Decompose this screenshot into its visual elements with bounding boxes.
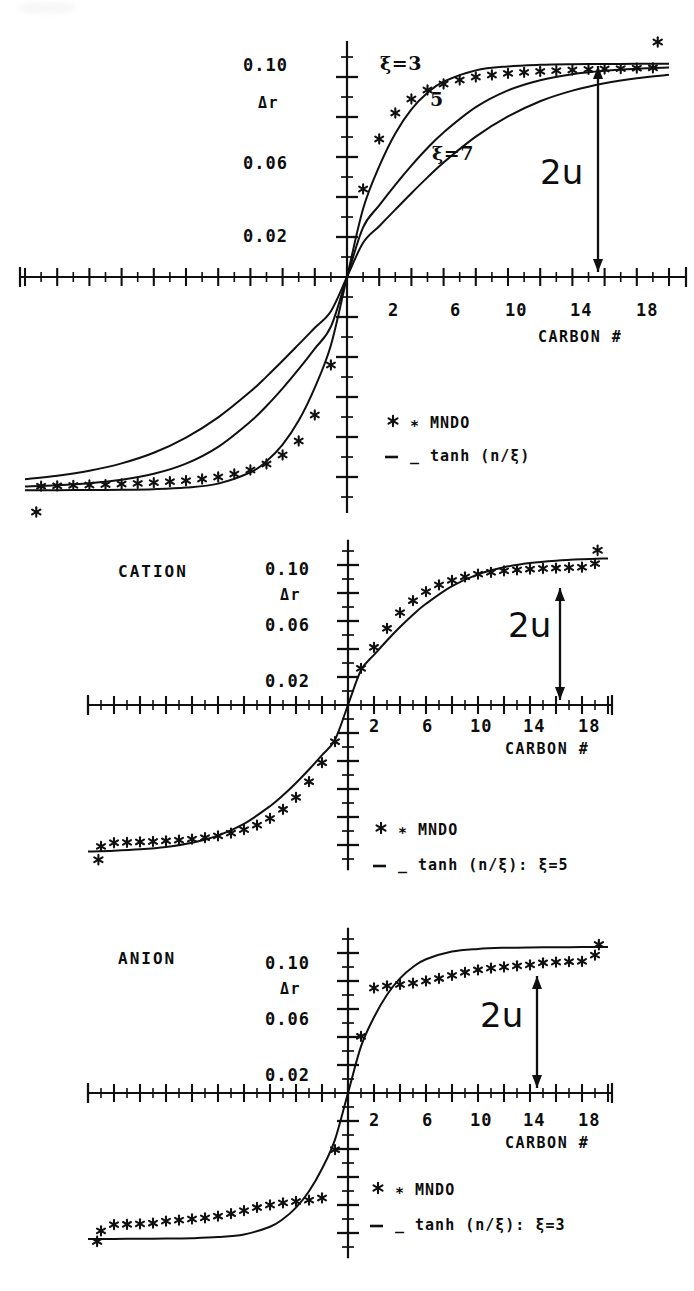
panel-title-cation: CATION (118, 564, 188, 580)
x-tick-label-6-anion: 6 (422, 1112, 433, 1129)
figure-root: 0.10 0.06 0.02 Δr 2 6 10 14 18 CARBON # … (0, 0, 694, 1291)
x-tick-label-2-anion: 2 (369, 1112, 380, 1129)
legend-mndo-neutral: ∗ MNDO (410, 416, 470, 431)
x-axis-label-cation: CARBON # (505, 742, 589, 757)
plot-canvas-neutral (0, 0, 694, 520)
x-tick-label-6-cation: 6 (422, 718, 433, 735)
series-label-xi7: ξ=7 (432, 144, 474, 163)
panel-title-anion: ANION (118, 951, 176, 967)
y-tick-label-0.10-cation: 0.10 (265, 561, 310, 578)
x-tick-label-18-anion: 18 (578, 1112, 600, 1129)
plot-canvas-anion (0, 900, 694, 1291)
legend-glyphs (385, 416, 398, 457)
annotation-2u-neutral: 2u (540, 155, 583, 189)
y-tick-label-0.06: 0.06 (243, 155, 288, 172)
x-tick-label-14-anion: 14 (523, 1112, 545, 1129)
x-axis-label: CARBON # (538, 330, 622, 345)
x-tick-label-2-cation: 2 (369, 718, 380, 735)
points-MNDO (357, 559, 599, 673)
x-tick-label-18-cation: 18 (578, 718, 600, 735)
x-tick-label-18: 18 (636, 302, 658, 319)
chart-panel-cation: CATION 0.10 0.06 0.02 Δr 2 6 10 14 18 CA… (0, 520, 694, 900)
y-tick-label-0.06-cation: 0.06 (265, 617, 310, 634)
x-axis (20, 267, 686, 287)
annotation-2u-anion: 2u (480, 998, 523, 1032)
annotation-2u-arrow (555, 588, 565, 700)
points-MNDO-negative (97, 1145, 339, 1235)
y-axis-label-anion: Δr (280, 982, 301, 997)
y-axis-label: Δr (258, 96, 279, 111)
legend-mndo-cation: ∗ MNDO (398, 823, 458, 838)
legend-glyphs (373, 823, 386, 866)
series-label-xi5: 5 (430, 90, 444, 109)
legend-glyphs (370, 1183, 383, 1226)
x-tick-label-10-cation: 10 (470, 718, 492, 735)
chart-panel-anion: ANION 0.10 0.06 0.02 Δr 2 6 10 14 18 CAR… (0, 900, 694, 1291)
annotation-2u-arrow (532, 976, 542, 1088)
y-tick-label-0.10-anion: 0.10 (265, 955, 310, 972)
legend-tanh-cation: _ tanh (n/ξ): ξ=5 (398, 858, 569, 873)
points-MNDO (357, 951, 599, 1041)
y-tick-label-0.02-cation: 0.02 (265, 673, 310, 690)
y-tick-label-0.10: 0.10 (243, 57, 288, 74)
annotation-2u-cation: 2u (508, 608, 551, 642)
plot-canvas-cation (0, 520, 694, 900)
legend-tanh-neutral: _ tanh (n/ξ) (410, 449, 530, 464)
x-tick-label-10: 10 (505, 302, 527, 319)
y-tick-label-0.06-anion: 0.06 (265, 1011, 310, 1028)
annotation-2u-arrow (593, 66, 603, 272)
x-axis-label-anion: CARBON # (505, 1136, 589, 1151)
y-axis-label-cation: Δr (280, 588, 301, 603)
y-tick-label-0.02: 0.02 (243, 228, 288, 245)
x-tick-label-10-anion: 10 (470, 1112, 492, 1129)
x-tick-label-14-cation: 14 (523, 718, 545, 735)
x-tick-label-14: 14 (570, 302, 592, 319)
x-tick-label-2: 2 (388, 302, 399, 319)
points-MNDO-negative (97, 737, 339, 851)
y-tick-label-0.02-anion: 0.02 (265, 1067, 310, 1084)
series-label-xi3: ξ=3 (380, 54, 422, 73)
x-tick-label-6: 6 (450, 302, 461, 319)
legend-tanh-anion: _ tanh (n/ξ): ξ=3 (395, 1218, 566, 1233)
legend-mndo-anion: ∗ MNDO (395, 1183, 455, 1198)
chart-panel-neutral: 0.10 0.06 0.02 Δr 2 6 10 14 18 CARBON # … (0, 0, 694, 520)
